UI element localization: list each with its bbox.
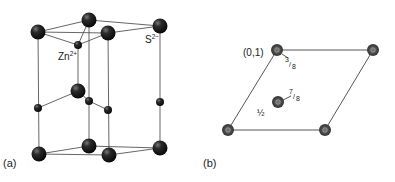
zn-atom (34, 104, 42, 112)
zn-charge: 2+ (70, 50, 78, 57)
panel-b-label: (b) (203, 157, 216, 169)
zn-atom (104, 106, 112, 114)
atom-top-right (367, 44, 379, 56)
corner-label: (0,1) (243, 47, 264, 58)
atom-bottom-left (222, 124, 234, 136)
frac-7-den: 8 (296, 95, 300, 102)
atom-bottom-right (319, 124, 331, 136)
s-atom (153, 19, 168, 34)
panel-a-label: (a) (3, 157, 16, 169)
s-charge: 2− (152, 33, 160, 40)
svg-text:/: / (289, 61, 291, 68)
atom-0-1 (271, 44, 283, 56)
svg-text:S2−: S2− (145, 33, 159, 45)
wurtzite-figure: Zn2+ S2− (a) (0, 0, 395, 182)
zn-atom (74, 41, 82, 49)
s-atom (71, 84, 86, 99)
s-atom (31, 25, 46, 40)
s-atom (101, 26, 116, 41)
s-atom (32, 147, 47, 162)
s-atom (102, 148, 117, 163)
panel-b-labels: (0,1) 3 / 8 7 / 8 ½ (b) (203, 47, 300, 169)
atom-center (272, 96, 284, 108)
panel-a-unit-cell (38, 20, 160, 155)
s-atom (153, 141, 168, 156)
svg-text:Zn2+: Zn2+ (58, 50, 77, 62)
frac-3-den: 8 (292, 63, 296, 70)
panel-b-cell (228, 50, 373, 130)
zn-atom (85, 97, 93, 105)
s-atom (82, 139, 97, 154)
svg-text:/: / (293, 93, 295, 100)
half-label: ½ (257, 108, 265, 118)
panel-a-labels: Zn2+ S2− (a) (3, 33, 159, 169)
zn-label: Zn (58, 51, 70, 62)
s-atom (82, 13, 97, 28)
zn-atom (156, 98, 164, 106)
